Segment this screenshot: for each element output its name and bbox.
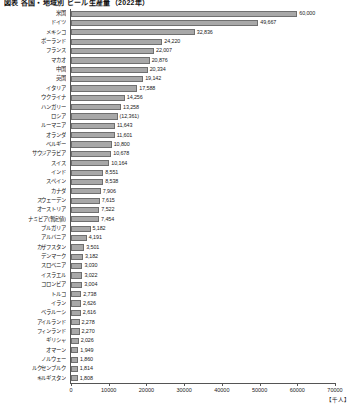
- bar-row: スロベニア3,030: [0, 261, 352, 270]
- bar-category-label: サウジアラビア: [0, 149, 66, 158]
- bar-value-label: 10,164: [111, 159, 127, 168]
- bar: [71, 29, 195, 35]
- bar: [71, 179, 103, 185]
- bar-row: カザフスタン3,501: [0, 243, 352, 252]
- bar-value-label: 19,142: [145, 74, 161, 83]
- bar-value-label: 22,007: [156, 46, 172, 55]
- bar-row: メキシコ32,836: [0, 28, 352, 37]
- bar-row: スペイン8,538: [0, 177, 352, 186]
- bar-category-label: アイルランド: [0, 318, 66, 327]
- bar-category-label: ベラルーシ: [0, 308, 66, 317]
- bar-value-label: 11,643: [117, 121, 133, 130]
- bar-category-label: ロシア: [0, 112, 66, 121]
- bar: [71, 319, 80, 325]
- bar-row: スウェーデン7,615: [0, 196, 352, 205]
- bar-category-label: 米国: [0, 9, 66, 18]
- bar-category-label: イタリア: [0, 84, 66, 93]
- bar-row: アルバニア4,191: [0, 233, 352, 242]
- x-axis-unit-label: 【千人】: [326, 396, 350, 404]
- bar-category-label: カザフスタン: [0, 243, 66, 252]
- bar-category-label: マカオ: [0, 56, 66, 65]
- bar: [71, 300, 81, 306]
- bar-value-label: 10,800: [114, 140, 130, 149]
- x-axis-tick: [184, 383, 185, 386]
- bar-category-label: ポーランド: [0, 37, 66, 46]
- bar-row: マカオ20,876: [0, 56, 352, 65]
- bar: [71, 95, 125, 101]
- x-axis-tick: [146, 383, 147, 386]
- bar-value-label: 7,906: [103, 187, 116, 196]
- bar-row: イタリア17,588: [0, 84, 352, 93]
- x-axis-tick-label: 20000: [139, 387, 154, 393]
- bar: [71, 160, 109, 166]
- bar-category-label: トルコ: [0, 290, 66, 299]
- bar-row: スイス10,164: [0, 159, 352, 168]
- bar-row: コロンビア3,004: [0, 280, 352, 289]
- bar-row: イスラエル3,022: [0, 271, 352, 280]
- bar-category-label: メキシコ: [0, 28, 66, 37]
- bar-row: フィンランド2,270: [0, 327, 352, 336]
- bar: [71, 48, 154, 54]
- bar-value-label: 2,278: [82, 318, 95, 327]
- bar: [71, 132, 115, 138]
- bar: [71, 310, 81, 316]
- bar-value-label: 8,538: [105, 177, 118, 186]
- x-axis-tick: [71, 383, 72, 386]
- bar-value-label: 10,678: [113, 149, 129, 158]
- bar-value-label: 49,667: [260, 18, 276, 27]
- bar: [71, 170, 103, 176]
- bar: [71, 291, 81, 297]
- bar: [71, 357, 78, 363]
- bar: [71, 226, 91, 232]
- bar-value-label: 8,551: [105, 168, 118, 177]
- chart-title: 図表 各国・地域別 ビール生産量（2022年）: [4, 0, 149, 7]
- bar-value-label: 2,738: [83, 290, 96, 299]
- bar-value-label: 3,022: [84, 271, 97, 280]
- bar-value-label: 20,876: [152, 56, 168, 65]
- bar: [71, 188, 101, 194]
- bar-row: カナダ7,906: [0, 187, 352, 196]
- bar: [71, 338, 79, 344]
- bar-value-label: 7,615: [102, 196, 115, 205]
- bar: [71, 76, 143, 82]
- bar-category-label: 中国: [0, 65, 66, 74]
- bar-value-label: 11,601: [117, 131, 133, 140]
- bar-value-label: 5,182: [93, 224, 106, 233]
- bar-value-label: 20,334: [150, 65, 166, 74]
- bar: [71, 207, 99, 213]
- bar-category-label: ブルガリア: [0, 224, 66, 233]
- bar: [71, 272, 82, 278]
- bar: [71, 39, 162, 45]
- bar: [71, 141, 112, 147]
- bar-row: 米国60,000: [0, 9, 352, 18]
- bar-category-label: コロンビア: [0, 280, 66, 289]
- bar-category-label: インド: [0, 168, 66, 177]
- bar-value-label: 13,258: [123, 103, 139, 112]
- x-axis-tick-label: 0: [69, 387, 72, 393]
- bar-row: ノルウェー1,860: [0, 355, 352, 364]
- bar-row: キルギスタン1,808: [0, 374, 352, 383]
- bar-row: オランダ11,601: [0, 131, 352, 140]
- bar-value-label: 2,626: [83, 299, 96, 308]
- bar-category-label: ルクセンブルク: [0, 364, 66, 373]
- bar-value-label: 3,004: [84, 280, 97, 289]
- bar: [71, 11, 297, 17]
- bar-value-label: 14,256: [127, 93, 143, 102]
- bar: [71, 104, 121, 110]
- bar-category-label: ドイツ: [0, 18, 66, 27]
- bar-row: ルクセンブルク1,814: [0, 364, 352, 373]
- x-axis-tick-label: 40000: [214, 387, 229, 393]
- x-axis-line: [70, 383, 335, 384]
- x-axis-tick: [335, 383, 336, 386]
- bar-category-label: イラン: [0, 299, 66, 308]
- bar-category-label: オーストリア: [0, 205, 66, 214]
- bar-value-label: 3,501: [86, 243, 99, 252]
- bar-category-label: スイス: [0, 159, 66, 168]
- bar-value-label: 2,026: [81, 336, 94, 345]
- bar-category-label: スロベニア: [0, 261, 66, 270]
- bar: [71, 366, 78, 372]
- bar-category-label: オマーン: [0, 346, 66, 355]
- bar-value-label: 7,522: [101, 205, 114, 214]
- bar-value-label: (12,361): [120, 112, 139, 121]
- bar: [71, 244, 84, 250]
